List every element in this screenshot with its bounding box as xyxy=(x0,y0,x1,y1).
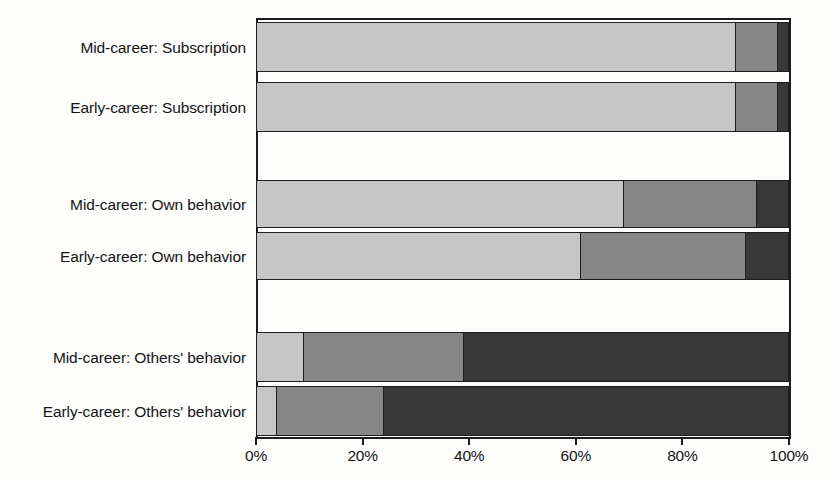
bar-segment-medium xyxy=(624,180,757,228)
x-axis-tick xyxy=(362,437,364,445)
bar-row xyxy=(256,232,789,280)
stacked-bar-chart: Mid-career: Subscription Early-career: S… xyxy=(0,0,837,479)
category-label-mid-career-subscription: Mid-career: Subscription xyxy=(80,40,246,56)
bar-segment-light xyxy=(256,22,736,72)
bar-segment-light xyxy=(256,180,624,228)
x-axis-tick xyxy=(681,437,683,445)
bar-row xyxy=(256,22,789,72)
bar-segment-dark xyxy=(384,386,789,436)
x-axis-tick xyxy=(468,437,470,445)
bar-segment-medium xyxy=(277,386,384,436)
category-label-early-career-subscription: Early-career: Subscription xyxy=(70,100,246,116)
category-label-mid-career-own-behavior: Mid-career: Own behavior xyxy=(70,197,246,213)
bar-segment-dark xyxy=(778,22,789,72)
bar-segment-dark xyxy=(778,82,789,132)
bar-segment-light xyxy=(256,386,277,436)
bar-segment-dark xyxy=(464,332,789,382)
bar-segment-dark xyxy=(746,232,789,280)
x-axis-tick xyxy=(255,437,257,445)
bar-segment-medium xyxy=(581,232,746,280)
bar-row xyxy=(256,180,789,228)
bar-segment-medium xyxy=(736,82,779,132)
x-axis-tick-label: 60% xyxy=(561,448,591,464)
x-axis-tick-label: 0% xyxy=(245,448,267,464)
bar-row xyxy=(256,386,789,436)
category-label-early-career-others-behavior: Early-career: Others' behavior xyxy=(43,404,246,420)
x-axis-tick-label: 100% xyxy=(770,448,809,464)
x-axis-tick-label: 80% xyxy=(667,448,697,464)
bar-segment-light xyxy=(256,232,581,280)
bar-row xyxy=(256,82,789,132)
x-axis-line xyxy=(256,437,791,439)
bar-segment-light xyxy=(256,332,304,382)
x-axis-tick xyxy=(788,437,790,445)
x-axis-tick-label: 40% xyxy=(454,448,484,464)
x-axis-tick xyxy=(575,437,577,445)
bar-segment-light xyxy=(256,82,736,132)
bar-segment-medium xyxy=(304,332,464,382)
category-label-early-career-own-behavior: Early-career: Own behavior xyxy=(60,249,246,265)
bar-segment-dark xyxy=(757,180,789,228)
category-axis-labels: Mid-career: Subscription Early-career: S… xyxy=(0,0,246,479)
category-label-mid-career-others-behavior: Mid-career: Others' behavior xyxy=(53,350,246,366)
bar-segment-medium xyxy=(736,22,779,72)
bar-row xyxy=(256,332,789,382)
x-axis-tick-label: 20% xyxy=(347,448,377,464)
